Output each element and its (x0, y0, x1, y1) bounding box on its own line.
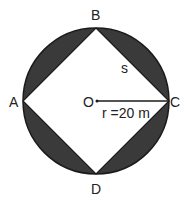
center-label-o: O (83, 94, 94, 110)
vertex-label-c: C (170, 94, 180, 110)
side-label-s: s (121, 60, 128, 76)
center-point (96, 100, 99, 103)
vertex-label-b: B (91, 7, 100, 23)
vertex-label-d: D (91, 181, 101, 197)
vertex-label-a: A (9, 94, 19, 110)
inscribed-square-diagram: B A C D O s r =20 m (0, 0, 190, 210)
radius-label: r =20 m (102, 105, 150, 121)
